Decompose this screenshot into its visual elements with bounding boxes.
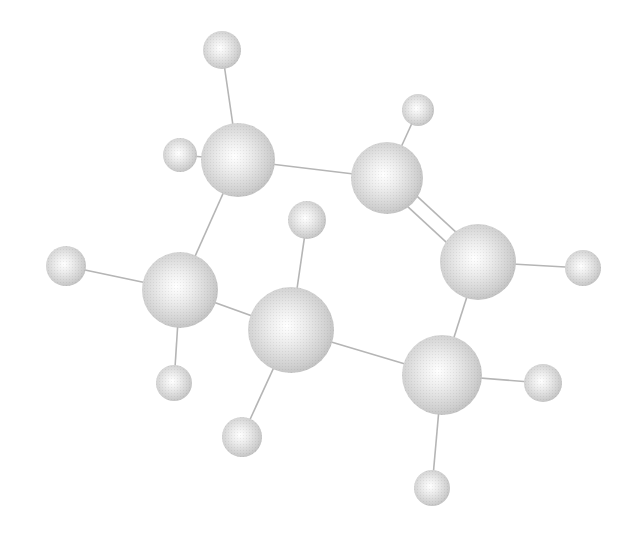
carbon-atom-C4	[402, 335, 482, 415]
carbon-atom-C6	[142, 252, 218, 328]
carbon-atom-C3	[440, 224, 516, 300]
hydrogen-atom-H7	[288, 201, 326, 239]
carbon-atom-C2	[351, 142, 423, 214]
hydrogen-atom-H4	[565, 250, 601, 286]
hydrogen-atom-H9	[46, 246, 86, 286]
hydrogen-atom-H6	[414, 470, 450, 506]
hydrogen-atom-H10	[156, 365, 192, 401]
hydrogen-atom-H1	[203, 31, 241, 69]
atom-layer	[46, 31, 601, 506]
carbon-atom-C1	[201, 123, 275, 197]
molecule-figure	[0, 0, 638, 540]
hydrogen-atom-H5	[524, 364, 562, 402]
carbon-atom-C5	[248, 287, 334, 373]
hydrogen-atom-H2	[163, 138, 197, 172]
hydrogen-atom-H3	[402, 94, 434, 126]
hydrogen-atom-H8	[222, 417, 262, 457]
molecule-canvas	[0, 0, 638, 540]
